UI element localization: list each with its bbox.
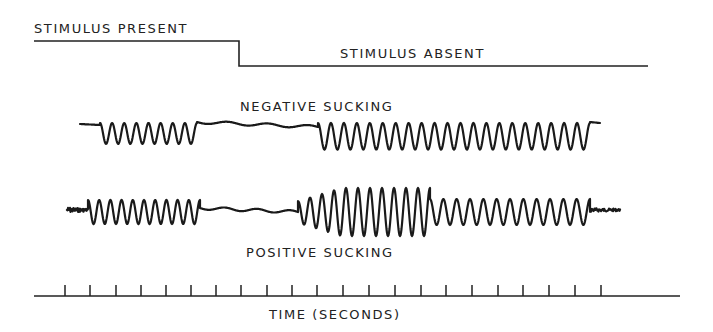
negative-sucking-trace: [80, 122, 600, 150]
positive-sucking-label: POSITIVE SUCKING: [246, 245, 394, 260]
positive-sucking-trace: [67, 188, 620, 236]
time-axis-ticks: [65, 285, 601, 296]
time-axis-label: TIME (SECONDS): [269, 307, 401, 322]
sucking-response-diagram: STIMULUS PRESENT STIMULUS ABSENT NEGATIV…: [0, 0, 713, 332]
negative-sucking-label: NEGATIVE SUCKING: [240, 99, 394, 114]
stimulus-present-label: STIMULUS PRESENT: [34, 21, 188, 36]
stimulus-absent-label: STIMULUS ABSENT: [340, 46, 485, 61]
